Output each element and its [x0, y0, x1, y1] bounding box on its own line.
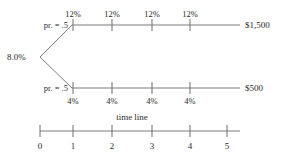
timeline-label-2: 2: [110, 141, 115, 151]
down-rate-label-3: 4%: [146, 96, 157, 106]
timeline-label-3: 3: [150, 141, 155, 151]
up-branch-probability-label: pr. = .5: [44, 20, 68, 30]
timeline-label-0: 0: [38, 141, 43, 151]
timeline-label-5: 5: [225, 141, 230, 151]
up-rate-label-4: 12%: [182, 9, 198, 19]
down-rate-label-1: 4%: [67, 96, 78, 106]
tree-diagram-svg: [0, 0, 281, 163]
root-rate-label: 8.0%: [7, 52, 26, 62]
timeline-label-1: 1: [71, 141, 76, 151]
up-rate-label-1: 12%: [65, 9, 81, 19]
down-branch-payoff-label: $500: [245, 83, 263, 93]
figure-container: 8.0% pr. = .5 12% 12% 12% 12% $1,500 pr.…: [0, 0, 281, 163]
up-rate-label-3: 12%: [144, 9, 160, 19]
timeline-title: time line: [116, 112, 148, 122]
down-rate-label-4: 4%: [184, 96, 195, 106]
up-branch-payoff-label: $1,500: [245, 20, 270, 30]
down-rate-label-2: 4%: [106, 96, 117, 106]
timeline-label-4: 4: [188, 141, 193, 151]
up-rate-label-2: 12%: [104, 9, 120, 19]
down-branch-probability-label: pr. = .5: [44, 83, 68, 93]
